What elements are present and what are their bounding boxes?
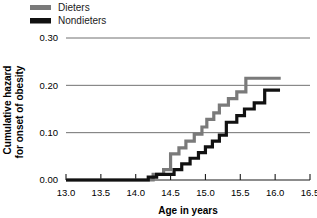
y-tick-label: 0.00: [40, 174, 59, 185]
legend-label-dieters: Dieters: [58, 2, 90, 13]
x-tick-label: 14.5: [161, 187, 180, 198]
legend-label-nondieters: Nondieters: [58, 15, 106, 26]
cumulative-hazard-chart: Dieters Nondieters 0.000.100.200.30 13.0…: [0, 0, 317, 218]
x-tick-label: 13.0: [57, 187, 76, 198]
legend-swatch-dieters: [30, 5, 51, 10]
x-tick-label: 16.0: [266, 187, 285, 198]
x-tick-label: 14.0: [126, 187, 145, 198]
x-tick-label: 15.0: [196, 187, 215, 198]
y-tick-label: 0.20: [40, 80, 59, 91]
x-tick-label: 16.5: [301, 187, 317, 198]
x-axis-title: Age in years: [158, 205, 218, 216]
x-tick-label: 15.5: [231, 187, 250, 198]
y-axis-title-line1: Cumulative hazard: [2, 66, 13, 155]
y-tick-label: 0.30: [40, 32, 59, 43]
x-tick-label: 13.5: [92, 187, 111, 198]
legend-swatch-nondieters: [30, 18, 51, 24]
y-axis-title-line2: for onset of obesity: [14, 65, 25, 158]
y-tick-label: 0.10: [40, 127, 59, 138]
